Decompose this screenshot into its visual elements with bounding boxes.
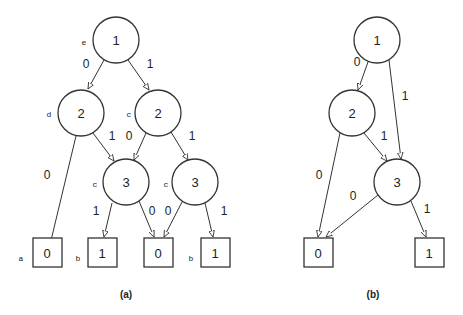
svg-text:1: 1 bbox=[112, 33, 119, 48]
node-a-root: 1 e bbox=[82, 17, 139, 63]
terminal-a-1-left: 1 b bbox=[76, 238, 117, 267]
var-label: d bbox=[47, 110, 52, 119]
edge-label: 1 bbox=[402, 89, 409, 103]
edge-label: 1 bbox=[93, 204, 100, 218]
edge-label: 1 bbox=[424, 202, 431, 216]
svg-text:1: 1 bbox=[373, 33, 380, 48]
edge-a-2r-3r bbox=[171, 132, 188, 160]
edge-label: 0 bbox=[126, 129, 133, 143]
edge-label: 0 bbox=[83, 57, 90, 71]
var-label: c bbox=[93, 180, 98, 189]
edge-label: 1 bbox=[109, 129, 116, 143]
edge-a-3l-t1 bbox=[104, 203, 112, 237]
edge-label: 0 bbox=[350, 189, 357, 203]
svg-text:3: 3 bbox=[122, 175, 129, 190]
var-label: c bbox=[127, 110, 132, 119]
edge-label: 0 bbox=[44, 168, 51, 182]
svg-text:2: 2 bbox=[154, 106, 161, 121]
edge-a-1-2l bbox=[88, 60, 104, 89]
svg-text:1: 1 bbox=[98, 246, 105, 261]
svg-text:1: 1 bbox=[211, 246, 218, 261]
edge-label: 0 bbox=[149, 204, 156, 218]
edge-label: 0 bbox=[316, 168, 323, 182]
svg-text:1: 1 bbox=[425, 246, 432, 261]
terminal-a-0-left: 0 a bbox=[19, 238, 62, 267]
terminal-a-1-right: 1 b bbox=[189, 238, 230, 267]
bdd-diagram-figure: 0 1 0 1 0 1 1 0 0 1 1 e 2 d 2 c 3 c bbox=[0, 0, 463, 315]
var-label: b bbox=[76, 254, 81, 263]
diagram-b: 0 1 0 1 0 1 1 2 3 0 1 (b) bbox=[304, 17, 444, 300]
terminal-a-0-right: 0 bbox=[144, 238, 173, 267]
svg-text:0: 0 bbox=[314, 246, 321, 261]
svg-text:3: 3 bbox=[191, 175, 198, 190]
node-a-3-right: 3 c bbox=[164, 159, 218, 205]
edge-a-3r-t1 bbox=[205, 203, 213, 237]
edge-label: 1 bbox=[189, 129, 196, 143]
node-a-3-left: 3 c bbox=[93, 159, 149, 205]
edge-b-1-3 bbox=[389, 60, 401, 159]
terminal-b-0: 0 bbox=[304, 238, 333, 267]
var-label: b bbox=[189, 254, 194, 263]
svg-text:2: 2 bbox=[348, 106, 355, 121]
diagram-svg: 0 1 0 1 0 1 1 0 0 1 1 e 2 d 2 c 3 c bbox=[0, 0, 463, 315]
node-a-2-left: 2 d bbox=[47, 90, 104, 136]
edge-a-2l-t0 bbox=[48, 136, 76, 253]
edge-a-2r-3l bbox=[134, 133, 146, 160]
node-b-3: 3 bbox=[374, 159, 420, 205]
edge-b-2-t0 bbox=[318, 133, 340, 237]
var-label: e bbox=[82, 38, 87, 47]
edge-label: 0 bbox=[165, 204, 172, 218]
svg-text:2: 2 bbox=[77, 106, 84, 121]
var-label: a bbox=[19, 254, 24, 263]
edge-label: 1 bbox=[381, 129, 388, 143]
edge-label: 1 bbox=[221, 204, 228, 218]
edge-label: 1 bbox=[147, 57, 154, 71]
edge-label: 0 bbox=[354, 55, 361, 69]
node-b-2: 2 bbox=[329, 90, 375, 136]
svg-text:3: 3 bbox=[393, 175, 400, 190]
node-a-2-right: 2 c bbox=[127, 90, 181, 136]
var-label: c bbox=[164, 180, 169, 189]
caption-b: (b) bbox=[367, 289, 380, 300]
terminal-b-1: 1 bbox=[415, 238, 444, 267]
node-b-root: 1 bbox=[354, 17, 400, 63]
caption-a: (a) bbox=[120, 289, 132, 300]
svg-text:0: 0 bbox=[154, 246, 161, 261]
svg-text:0: 0 bbox=[43, 246, 50, 261]
diagram-a: 0 1 0 1 0 1 1 0 0 1 1 e 2 d 2 c 3 c bbox=[19, 17, 230, 300]
